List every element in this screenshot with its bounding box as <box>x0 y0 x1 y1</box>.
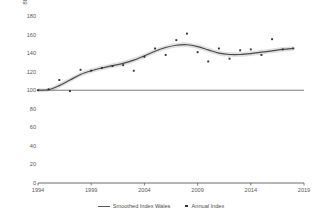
annual-index-points <box>37 33 294 92</box>
data-point <box>271 38 273 40</box>
data-point <box>282 48 284 50</box>
confidence-band <box>38 42 293 92</box>
data-point <box>197 51 199 53</box>
data-point <box>175 39 177 41</box>
data-point <box>218 48 220 50</box>
legend-label-smoothed: Smoothed Index Wales <box>113 203 171 210</box>
data-point <box>165 54 167 56</box>
data-point <box>58 79 60 81</box>
data-point <box>143 56 145 58</box>
data-point <box>80 69 82 71</box>
x-axis-tick-labels: 199419992004200920142019 <box>0 187 322 196</box>
legend-item-annual: Annual Index <box>184 203 224 210</box>
data-point <box>154 48 156 50</box>
legend-item-smoothed: Smoothed Index Wales <box>98 203 171 210</box>
data-point <box>260 54 262 56</box>
data-point <box>101 67 103 69</box>
data-point <box>112 65 114 67</box>
data-point <box>250 48 252 50</box>
chart-legend: Smoothed Index Wales Annual Index <box>0 200 322 212</box>
x-tick-label: 1994 <box>20 187 56 194</box>
data-point <box>239 49 241 51</box>
x-tick-label: 1999 <box>73 187 109 194</box>
data-point <box>69 90 71 92</box>
plot-area <box>0 0 322 216</box>
data-point <box>90 70 92 72</box>
line-swatch-icon <box>98 206 110 207</box>
x-tick-label: 2014 <box>233 187 269 194</box>
legend-label-annual: Annual Index <box>192 203 225 210</box>
data-point <box>133 70 135 72</box>
x-tick-label: 2004 <box>126 187 162 194</box>
chart-container: BBS Index 020406080100120140160180 19941… <box>0 0 322 216</box>
data-point <box>37 89 39 91</box>
data-point <box>207 61 209 63</box>
data-point <box>48 88 50 90</box>
confidence-band-group <box>38 42 293 92</box>
x-tick-label: 2019 <box>286 187 322 194</box>
data-point <box>229 58 231 60</box>
data-point <box>122 64 124 66</box>
x-tick-label: 2009 <box>180 187 216 194</box>
square-marker-icon <box>185 205 187 207</box>
data-point <box>292 48 294 50</box>
data-point <box>186 33 188 35</box>
